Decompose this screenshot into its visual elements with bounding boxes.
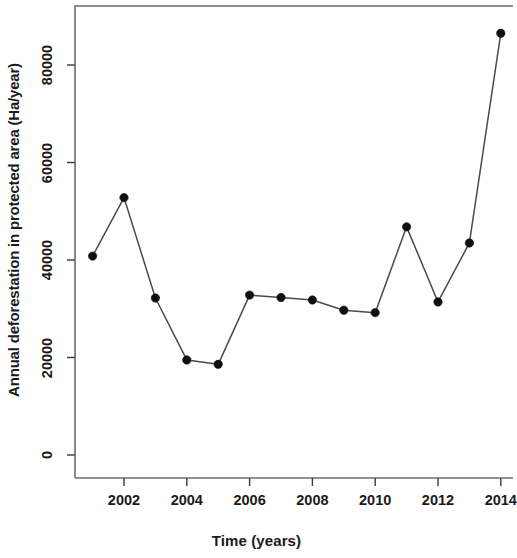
x-axis-tick-label: 2004 [171,492,203,508]
data-series-points [88,29,505,368]
x-axis-tick-label: 2006 [233,492,265,508]
x-axis-tick-marks [124,478,501,486]
y-axis-tick-marks [67,65,75,455]
x-axis-tick-label: 2012 [422,492,454,508]
x-axis-tick-label: 2008 [296,492,328,508]
x-axis-tick-label: 2010 [359,492,391,508]
data-series-line [93,33,501,364]
plot-frame [75,6,513,478]
x-axis-tick-label: 2002 [108,492,140,508]
x-axis-tick-label: 2014 [485,492,517,508]
x-axis-title: Time (years) [0,532,513,549]
